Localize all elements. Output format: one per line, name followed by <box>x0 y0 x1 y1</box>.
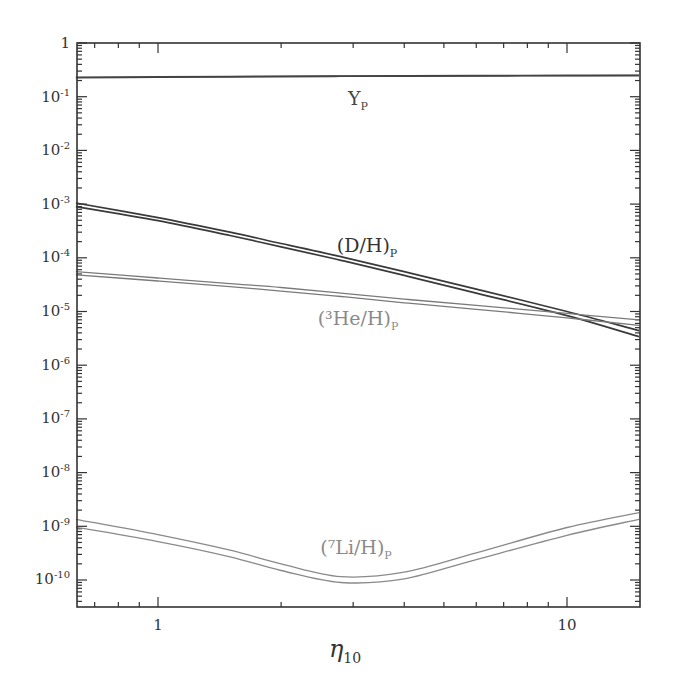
label-dh: (D/H)P <box>337 234 398 260</box>
y-tick-1e-5: 10-5 <box>41 301 70 320</box>
x-tick-1: 1 <box>153 616 163 634</box>
y-tick-labels: 1 10-1 10-2 10-3 10-4 10-5 10-6 10-7 10-… <box>35 34 70 588</box>
y-tick-1e-7: 10-7 <box>41 408 70 427</box>
y-tick-1e-10: 10-10 <box>35 569 70 588</box>
y-tick-1e-3: 10-3 <box>41 194 70 213</box>
y-tick-1e-6: 10-6 <box>41 355 70 374</box>
nucleosynthesis-chart: 1 10-1 10-2 10-3 10-4 10-5 10-6 10-7 10-… <box>0 0 674 689</box>
label-he3: (³He/H)P <box>318 307 399 333</box>
y-tick-1e-9: 10-9 <box>41 516 70 535</box>
y-tick-1e-4: 10-4 <box>41 247 70 266</box>
label-yp: YP <box>347 87 369 113</box>
y-tick-1e-1: 10-1 <box>41 87 70 106</box>
label-li7: (⁷Li/H)P <box>320 536 392 562</box>
y-tick-1e-2: 10-2 <box>41 140 70 159</box>
y-tick-1e-8: 10-8 <box>41 462 70 481</box>
abundance-curves <box>76 75 639 583</box>
x-axis-title: η10 <box>329 635 361 666</box>
x-tick-10: 10 <box>557 616 576 634</box>
y-tick-1: 1 <box>60 34 70 52</box>
curve-y-p-lower <box>76 76 639 78</box>
